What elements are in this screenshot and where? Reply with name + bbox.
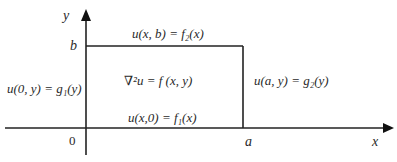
x-axis-arrow-icon [383, 123, 394, 133]
b-label: b [70, 39, 77, 53]
top-boundary-condition: u(x, b) = f₂(x) [132, 27, 204, 40]
bottom-boundary-condition: u(x,0) = f₁(x) [128, 111, 197, 124]
right-boundary-condition: u(a, y) = g₂(y) [254, 74, 329, 87]
left-boundary-condition: u(0, y) = g₁(y) [7, 82, 82, 95]
y-axis-label: y [63, 9, 69, 23]
origin-label: 0 [69, 134, 76, 147]
y-axis-arrow-icon [81, 9, 91, 21]
a-label: a [245, 135, 252, 149]
interior-equation: ∇²u = f (x, y) [124, 74, 192, 87]
poisson-rectangle-diagram: y b 0 a x u(x, b) = f₂(x) u(0, y) = g₁(y… [0, 0, 397, 162]
x-axis-label: x [372, 135, 378, 149]
